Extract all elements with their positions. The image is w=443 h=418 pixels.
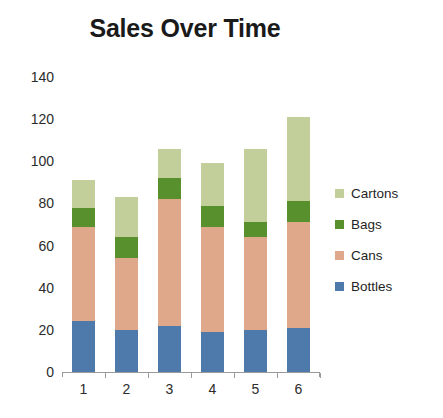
y-tick-label: 0 [14,364,54,380]
bar-segment-bags[interactable] [115,237,138,258]
bar-segment-cartons[interactable] [115,197,138,237]
bar-segment-cans[interactable] [158,199,181,325]
legend-swatch-icon [335,189,344,198]
bar-segment-bags[interactable] [72,208,95,227]
bar-stack[interactable] [72,180,95,372]
bar-segment-bags[interactable] [244,222,267,237]
bar-segment-bags[interactable] [287,201,310,222]
x-tick [191,373,192,378]
chart-container: Sales Over Time 020406080100120140 Carto… [0,0,443,418]
legend-label: Cans [351,248,383,263]
bar-segment-bottles[interactable] [244,330,267,372]
y-axis: 020406080100120140 [12,70,54,372]
bar-segment-cans[interactable] [115,258,138,330]
legend-item-cartons[interactable]: Cartons [335,178,439,209]
x-tick [148,373,149,378]
x-tick-label: 4 [193,381,233,397]
y-tick-label: 40 [14,280,54,296]
bar-segment-bottles[interactable] [201,332,224,372]
y-tick-label: 100 [14,153,54,169]
x-tick-label: 3 [150,381,190,397]
bar-segment-cans[interactable] [201,227,224,332]
legend-swatch-icon [335,220,344,229]
bar-segment-cartons[interactable] [72,180,95,207]
x-tick [105,373,106,378]
x-tick-label: 1 [64,381,104,397]
bar-segment-cans[interactable] [244,237,267,330]
bar-segment-cartons[interactable] [244,149,267,223]
bar-segment-bottles[interactable] [158,326,181,372]
bar-stack[interactable] [158,149,181,372]
y-tick-label: 80 [14,195,54,211]
x-tick [277,373,278,378]
bar-segment-cartons[interactable] [158,149,181,179]
bar-segment-bags[interactable] [201,206,224,227]
x-tick-label: 5 [236,381,276,397]
legend-label: Bags [351,217,382,232]
x-tick-label: 6 [279,381,319,397]
chart-legend: CartonsBagsCansBottles [335,178,439,302]
y-tick-label: 60 [14,238,54,254]
y-tick-label: 140 [14,69,54,85]
bar-segment-bottles[interactable] [115,330,138,372]
y-tick-label: 20 [14,322,54,338]
bar-segment-cans[interactable] [287,222,310,327]
bar-segment-bottles[interactable] [72,321,95,372]
plot-area [62,70,320,372]
legend-label: Bottles [351,279,392,294]
chart-title: Sales Over Time [0,14,370,43]
legend-swatch-icon [335,282,344,291]
x-tick-label: 2 [107,381,147,397]
legend-item-bottles[interactable]: Bottles [335,271,439,302]
bar-segment-cartons[interactable] [287,117,310,201]
bar-stack[interactable] [244,149,267,372]
bar-stack[interactable] [115,197,138,372]
x-tick [320,373,321,378]
x-tick [234,373,235,378]
legend-label: Cartons [351,186,398,201]
bar-segment-cans[interactable] [72,227,95,322]
bar-segment-cartons[interactable] [201,163,224,205]
legend-swatch-icon [335,251,344,260]
x-axis-cap-left [62,372,63,377]
bar-stack[interactable] [287,117,310,372]
legend-item-cans[interactable]: Cans [335,240,439,271]
y-tick-label: 120 [14,111,54,127]
legend-item-bags[interactable]: Bags [335,209,439,240]
bar-segment-bottles[interactable] [287,328,310,372]
bar-stack[interactable] [201,163,224,372]
bar-segment-bags[interactable] [158,178,181,199]
